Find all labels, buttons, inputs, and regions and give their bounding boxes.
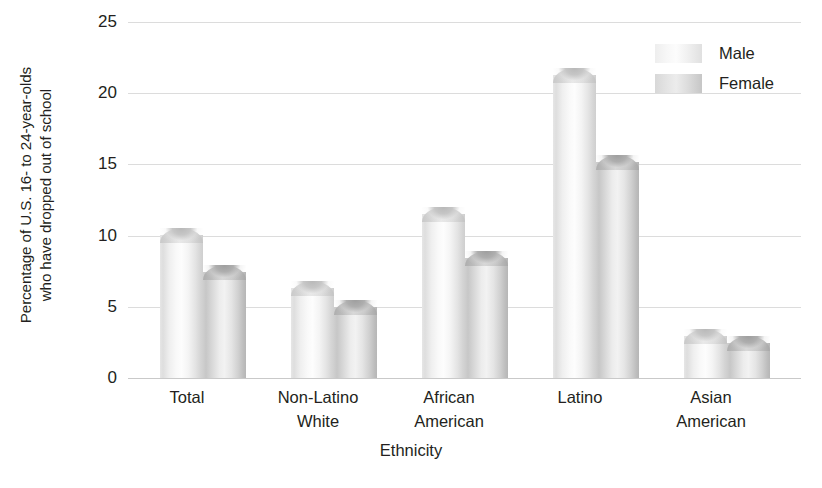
- legend-label-female: Female: [719, 74, 774, 93]
- x-tick-label-line-2: White: [259, 410, 377, 434]
- x-tick-label-latino: Latino: [521, 386, 639, 410]
- bar-body: [553, 75, 596, 378]
- x-tick-label-line-1: Total: [128, 386, 246, 410]
- bar-body: [465, 258, 508, 378]
- x-tick-label-line-1: Asian: [652, 386, 770, 410]
- y-tick-label-20: 20: [98, 83, 117, 103]
- y-axis-title-line-1: Percentage of U.S. 16- to 24-year-olds: [17, 67, 34, 323]
- bar-cap-shadow: [203, 265, 246, 280]
- page-bottom-sliver: [40, 478, 190, 484]
- legend-swatch-female-icon: [655, 74, 702, 93]
- legend: Male Female: [655, 38, 815, 98]
- bar-non-latino-white-female[interactable]: [334, 300, 377, 378]
- gridline-0-baseline: [128, 378, 801, 379]
- y-tick-label-15: 15: [98, 154, 117, 174]
- x-tick-label-non-latino-white: Non-Latino White: [259, 386, 377, 434]
- bar-african-american-male[interactable]: [422, 207, 465, 378]
- bar-cap-shadow: [684, 329, 727, 344]
- x-tick-label-african-american: African American: [390, 386, 508, 434]
- x-axis-title: Ethnicity: [0, 441, 822, 460]
- gridline-25: [128, 22, 801, 23]
- bar-body: [160, 235, 203, 378]
- y-tick-label-5: 5: [108, 297, 117, 317]
- bar-cap-shadow: [596, 155, 639, 170]
- bar-cap-shadow: [553, 68, 596, 83]
- x-tick-label-line-1: African: [390, 386, 508, 410]
- y-tick-label-0: 0: [108, 368, 117, 388]
- bar-total-male[interactable]: [160, 228, 203, 378]
- bar-african-american-female[interactable]: [465, 251, 508, 378]
- bar-body: [291, 288, 334, 378]
- legend-item-male[interactable]: Male: [655, 38, 815, 68]
- bar-cap-shadow: [727, 336, 770, 351]
- legend-label-male: Male: [719, 44, 755, 63]
- bar-latino-female[interactable]: [596, 155, 639, 378]
- legend-item-female[interactable]: Female: [655, 68, 815, 98]
- x-tick-label-line-2: American: [652, 410, 770, 434]
- y-tick-label-10: 10: [98, 226, 117, 246]
- bar-body: [334, 307, 377, 378]
- bar-body: [203, 272, 246, 378]
- bar-cap-shadow: [291, 281, 334, 296]
- bar-latino-male[interactable]: [553, 68, 596, 378]
- bar-body: [596, 162, 639, 378]
- y-axis-title-line-2: who have dropped out of school: [37, 89, 54, 301]
- x-tick-label-line-1: Latino: [521, 386, 639, 410]
- bar-cap-shadow: [334, 300, 377, 315]
- y-axis-title: Percentage of U.S. 16- to 24-year-olds w…: [2, 0, 68, 390]
- x-tick-label-line-2: American: [390, 410, 508, 434]
- bar-cap-shadow: [465, 251, 508, 266]
- bar-total-female[interactable]: [203, 265, 246, 378]
- legend-swatch-male-icon: [655, 44, 702, 63]
- gridline-15: [128, 164, 801, 165]
- bar-non-latino-white-male[interactable]: [291, 281, 334, 378]
- bar-cap-shadow: [422, 207, 465, 222]
- bar-cap-shadow: [160, 228, 203, 243]
- bar-asian-american-female[interactable]: [727, 336, 770, 378]
- bar-body: [422, 214, 465, 378]
- y-tick-label-25: 25: [98, 12, 117, 32]
- dropout-rate-bar-chart: Percentage of U.S. 16- to 24-year-olds w…: [0, 0, 822, 488]
- x-tick-label-asian-american: Asian American: [652, 386, 770, 434]
- x-tick-label-total: Total: [128, 386, 246, 410]
- bar-asian-american-male[interactable]: [684, 329, 727, 378]
- x-tick-label-line-1: Non-Latino: [259, 386, 377, 410]
